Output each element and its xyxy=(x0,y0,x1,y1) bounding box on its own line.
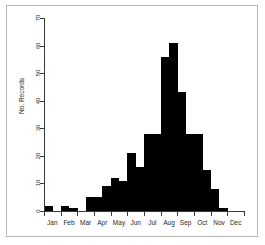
y-axis-tick-label: 20 xyxy=(35,153,41,160)
x-axis-tick-label: Mar xyxy=(80,219,91,226)
x-axis-tick xyxy=(144,212,145,216)
x-axis-tick xyxy=(44,212,45,216)
x-axis-tick xyxy=(77,212,78,216)
histogram-bars xyxy=(44,18,244,211)
x-axis-tick-label: Nov xyxy=(213,219,225,226)
chart-screenshot: No. Records 010203040506070 JanFebMarApr… xyxy=(0,0,265,245)
x-axis-tick-label: Oct xyxy=(197,219,207,226)
x-axis-tick-label: Aug xyxy=(163,219,175,226)
y-axis-tick-label: 50 xyxy=(35,70,41,77)
y-axis-tick-label: 0 xyxy=(35,209,41,212)
x-axis-tick xyxy=(227,212,228,216)
plot-area xyxy=(44,18,244,211)
x-axis-tick xyxy=(194,212,195,216)
x-axis-tick xyxy=(61,212,62,216)
y-axis-title: No. Records xyxy=(18,78,25,114)
x-axis-tick xyxy=(211,212,212,216)
x-axis-tick xyxy=(94,212,95,216)
x-axis-tick-label: Apr xyxy=(97,219,107,226)
y-axis-tick-label: 40 xyxy=(35,97,41,104)
x-axis-tick xyxy=(161,212,162,216)
y-axis-tick-label: 70 xyxy=(35,15,41,22)
x-axis-tick xyxy=(244,212,245,216)
x-axis-tick-label: Jan xyxy=(47,219,57,226)
x-axis-tick-label: Sep xyxy=(180,219,192,226)
x-axis xyxy=(44,211,245,212)
y-axis-tick-label: 10 xyxy=(35,180,41,187)
x-axis-tick-label: Jun xyxy=(130,219,140,226)
x-axis-tick xyxy=(127,212,128,216)
x-axis-tick-label: Jul xyxy=(148,219,156,226)
x-axis-tick xyxy=(177,212,178,216)
y-axis xyxy=(44,18,45,211)
x-axis-tick-label: May xyxy=(113,219,125,226)
y-axis-tick-label: 30 xyxy=(35,125,41,132)
x-axis-tick-label: Dec xyxy=(230,219,242,226)
y-axis-tick-label: 60 xyxy=(35,42,41,49)
x-axis-tick-label: Feb xyxy=(63,219,74,226)
x-axis-tick xyxy=(111,212,112,216)
